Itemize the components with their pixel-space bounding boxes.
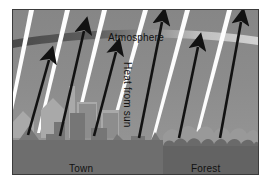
diagram-figure: Atmosphere Heat from sun Town Forest <box>0 0 271 189</box>
forest-ground <box>163 146 258 174</box>
forest-group <box>163 126 258 174</box>
diagram-frame: Atmosphere Heat from sun Town Forest <box>12 9 259 175</box>
town-ground <box>13 140 163 174</box>
diagram-scene <box>13 10 258 174</box>
